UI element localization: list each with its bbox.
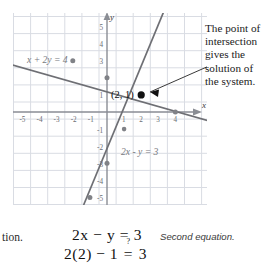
second-equation-note: Second equation.	[160, 231, 235, 242]
substitution-check-suffix: 3	[139, 245, 147, 262]
point-marker	[173, 110, 178, 115]
y-axis-label: y	[109, 13, 114, 22]
x-tick-label: -4	[37, 116, 43, 124]
question-mark: ?	[122, 237, 134, 246]
annotation-line: gives the	[205, 48, 275, 61]
y-tick-label: -1	[97, 127, 103, 135]
annotation-line: the system.	[205, 75, 275, 88]
y-tick-label: 5	[99, 24, 103, 32]
x-tick-label: 3	[156, 116, 160, 124]
y-tick-label: 1	[99, 92, 103, 100]
callout-arrow	[150, 66, 207, 97]
point-marker	[87, 195, 92, 200]
y-tick-label: -4	[97, 178, 103, 186]
y-tick-label: -3	[97, 161, 103, 169]
x-tick-label: 4	[173, 116, 177, 124]
point-marker	[105, 75, 110, 80]
line1-equation-label: x + 2y = 4	[26, 54, 68, 65]
left-text-fragment: tion.	[2, 231, 23, 243]
y-tick-label: -5	[97, 195, 103, 203]
line-2x-minus-y-equals-3	[84, 13, 164, 205]
x-tick-label: 1	[122, 116, 126, 124]
plot-point-markers	[70, 58, 178, 200]
intersection-coordinate-label: (2, 1)	[111, 89, 134, 101]
annotation-line: solution of	[205, 62, 275, 75]
equals-sign: =	[124, 245, 133, 262]
callout-annotation: The point of intersection gives the solu…	[205, 22, 275, 88]
x-tick-label: -2	[71, 116, 77, 124]
x-tick-label: -1	[88, 116, 94, 124]
substitution-check: 2(2) − 1 ? = 3	[64, 245, 147, 263]
x-tick-label: 2	[139, 116, 143, 124]
intersection-point-marker	[138, 91, 145, 98]
point-marker	[105, 161, 110, 166]
grid-lines-horizontal	[13, 17, 207, 205]
substitution-check-prefix: 2(2) − 1	[64, 245, 118, 262]
annotation-line: intersection	[205, 35, 275, 48]
y-tick-label: -2	[97, 144, 103, 152]
annotation-line: The point of	[205, 22, 275, 35]
x-tick-label: -5	[19, 116, 25, 124]
y-tick-label: 3	[99, 58, 103, 66]
point-marker	[70, 58, 75, 63]
x-axis-label: x	[201, 100, 206, 110]
coordinate-plane-svg: -5 -4 -3 -2 -1 1 2 3 4 5 4 3 1 -1 -2 -3 …	[13, 13, 207, 205]
y-tick-label: 4	[99, 41, 103, 49]
line2-equation-label: 2x - y = 3	[121, 146, 159, 157]
question-equals-symbol: ? =	[122, 245, 134, 263]
worked-example-text: tion. 2x − y = 3 Second equation. 2(2) −…	[0, 222, 274, 261]
coordinate-plane: -5 -4 -3 -2 -1 1 2 3 4 5 4 3 1 -1 -2 -3 …	[13, 13, 207, 205]
line-x-plus-2y-equals-4	[13, 64, 207, 122]
x-tick-label: -3	[54, 116, 60, 124]
point-marker	[122, 127, 127, 132]
y-axis	[104, 13, 111, 205]
